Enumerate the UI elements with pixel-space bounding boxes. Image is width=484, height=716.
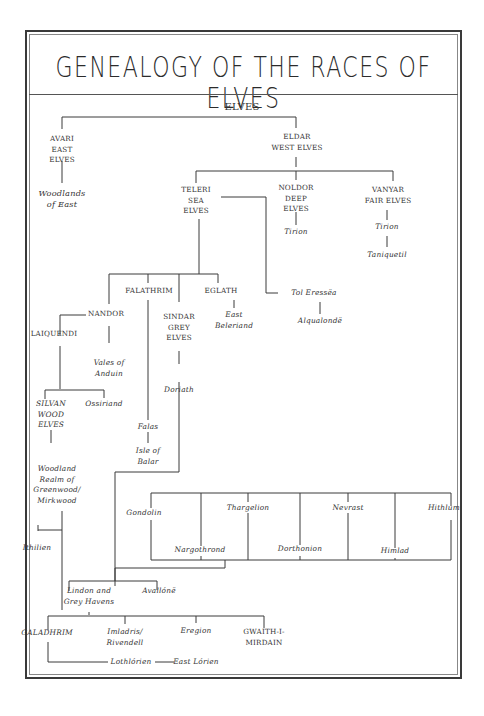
node-tirion-noldor: Tirion <box>284 227 308 238</box>
node-ossiriand: Ossiriand <box>85 399 123 410</box>
node-vales-of-anduin: Vales of Anduin <box>94 358 125 379</box>
node-falas: Falas <box>138 422 159 433</box>
node-elves: ELVES <box>224 102 259 113</box>
node-lothlorien: Lothlórien <box>111 657 152 668</box>
node-gwaith-i-mirdain: GWAITH-I- MIRDAIN <box>243 627 284 648</box>
node-isle-of-balar: Isle of Balar <box>136 446 160 467</box>
node-eldar: ELDAR WEST ELVES <box>271 132 322 153</box>
node-dorthonion: Dorthonion <box>278 544 322 555</box>
node-woodland-realm: Woodland Realm of Greenwood/ Mirkwood <box>33 464 80 506</box>
node-hithlum: Hithlum <box>428 503 460 514</box>
node-ithilien: Ithilien <box>23 543 51 554</box>
node-alqualonde: Alqualondë <box>298 316 342 327</box>
node-noldor: NOLDOR DEEP ELVES <box>278 183 313 215</box>
node-teleri: TELERI SEA ELVES <box>181 185 211 217</box>
node-taniquetil: Taniquetil <box>367 250 406 261</box>
node-nevrast: Nevrast <box>332 503 363 514</box>
node-thargelion: Thargelion <box>227 503 270 514</box>
node-imladris: Imladris/ Rivendell <box>107 627 144 648</box>
node-doriath: Doriath <box>164 385 194 396</box>
node-eglath: EGLATH <box>205 286 238 297</box>
node-falathrim: FALATHRIM <box>125 286 173 297</box>
node-east-beleriand: East Beleriand <box>215 310 253 331</box>
node-nandor: NANDOR <box>88 309 124 320</box>
node-sindar: SINDAR GREY ELVES <box>163 312 195 344</box>
node-eregion: Eregion <box>180 626 211 637</box>
node-east-lorien: East Lórien <box>173 657 219 668</box>
node-silvan: SILVAN WOOD ELVES <box>36 399 66 431</box>
node-vanyar: VANYAR FAIR ELVES <box>365 185 412 206</box>
node-woodlands-of-east: Woodlands of East <box>39 188 86 210</box>
node-himlad: Himlad <box>381 546 410 557</box>
node-lindon: Lindon and Grey Havens <box>64 586 115 607</box>
node-tol-eressea: Tol Eressëa <box>291 288 336 299</box>
node-gondolin: Gondolin <box>126 508 161 519</box>
node-avari: AVARI EAST ELVES <box>49 134 75 166</box>
node-laiquendi: LAIQUENDI <box>31 329 78 340</box>
node-nargothrond: Nargothrond <box>175 545 226 556</box>
node-galadhrim: GALADHRIM <box>21 628 73 639</box>
node-tirion-vanyar: Tirion <box>375 222 399 233</box>
node-avallone: Avallónë <box>142 586 176 597</box>
